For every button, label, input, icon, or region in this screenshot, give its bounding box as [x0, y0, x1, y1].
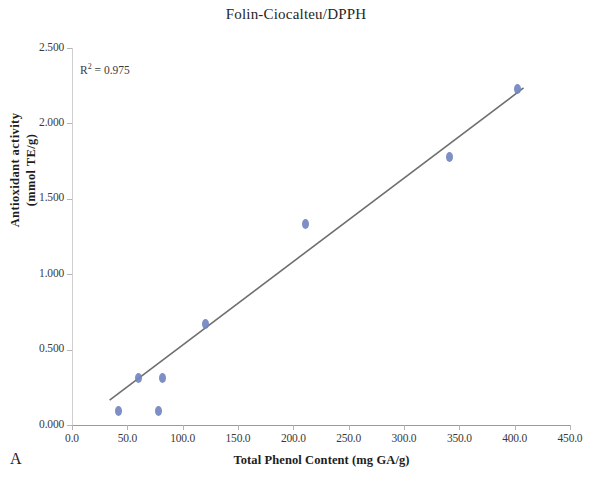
y-axis-tick-label: 1.500: [2, 191, 64, 203]
x-axis-tick-mark: [515, 425, 516, 430]
y-axis-tick-mark: [67, 350, 72, 351]
x-axis-tick-mark: [570, 425, 571, 430]
x-axis-tick-mark: [183, 425, 184, 430]
y-axis-tick-mark: [67, 199, 72, 200]
x-axis-tick-label: 300.0: [374, 432, 434, 444]
plot-area: [72, 48, 570, 425]
x-axis-tick-mark: [127, 425, 128, 430]
chart-figure: Folin-Ciocalteu/DPPH R2 = 0.975 Antioxid…: [0, 0, 592, 478]
y-axis-tick-label: 0.500: [2, 342, 64, 354]
y-axis-tick-label: 1.000: [2, 267, 64, 279]
x-axis-tick-label: 450.0: [540, 432, 592, 444]
x-axis-tick-label: 350.0: [429, 432, 489, 444]
x-axis-line: [72, 425, 571, 426]
y-axis-tick-label: 2.000: [2, 116, 64, 128]
x-axis-tick-label: 150.0: [208, 432, 268, 444]
x-axis-tick-label: 50.0: [97, 432, 157, 444]
x-axis-tick-mark: [404, 425, 405, 430]
y-axis-tick-mark: [67, 274, 72, 275]
y-axis-tick-label: 0.000: [2, 418, 64, 430]
y-axis-title: Antioxidant activity (mmol TE/g): [3, 55, 43, 285]
x-axis-title: Total Phenol Content (mg GA/g): [72, 453, 571, 468]
x-axis-tick-label: 200.0: [263, 432, 323, 444]
y-axis-tick-label: 2.500: [2, 41, 64, 53]
x-axis-tick-label: 400.0: [485, 432, 545, 444]
x-axis-tick-label: 250.0: [319, 432, 379, 444]
panel-label: A: [10, 450, 22, 468]
x-axis-tick-label: 0.0: [42, 432, 102, 444]
x-axis-tick-mark: [349, 425, 350, 430]
chart-title: Folin-Ciocalteu/DPPH: [0, 6, 592, 23]
x-axis-tick-mark: [293, 425, 294, 430]
y-axis-title-line1: Antioxidant activity: [7, 113, 23, 228]
x-axis-tick-mark: [238, 425, 239, 430]
y-axis-tick-mark: [67, 48, 72, 49]
x-axis-tick-label: 100.0: [153, 432, 213, 444]
x-axis-tick-mark: [72, 425, 73, 430]
scatter-point: [446, 152, 453, 162]
x-axis-tick-mark: [459, 425, 460, 430]
y-axis-tick-mark: [67, 123, 72, 124]
